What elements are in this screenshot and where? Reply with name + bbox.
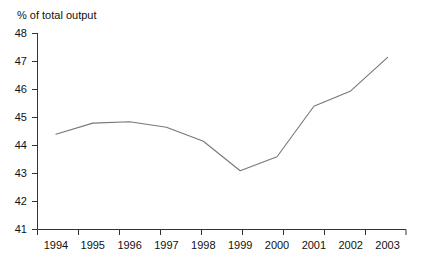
y-tick-label: 46 bbox=[5, 84, 27, 95]
x-axis-ticks bbox=[38, 230, 407, 236]
x-tick-label: 1994 bbox=[36, 240, 76, 251]
y-tick-label: 47 bbox=[5, 56, 27, 67]
x-tick-label: 2003 bbox=[368, 240, 408, 251]
x-tick-label: 2000 bbox=[257, 240, 297, 251]
y-tick-label: 48 bbox=[5, 28, 27, 39]
x-tick-label: 2002 bbox=[331, 240, 371, 251]
x-tick-label: 1995 bbox=[73, 240, 113, 251]
y-tick-label: 44 bbox=[5, 140, 27, 151]
data-series-line bbox=[56, 57, 388, 170]
y-tick-label: 41 bbox=[5, 224, 27, 235]
x-tick-label: 1999 bbox=[220, 240, 260, 251]
x-tick-label: 2001 bbox=[294, 240, 334, 251]
y-axis-ticks bbox=[32, 34, 38, 230]
y-tick-label: 45 bbox=[5, 112, 27, 123]
x-tick-label: 1998 bbox=[183, 240, 223, 251]
x-tick-label: 1997 bbox=[146, 240, 186, 251]
x-tick-label: 1996 bbox=[110, 240, 150, 251]
y-tick-label: 42 bbox=[5, 196, 27, 207]
chart-plot-area bbox=[0, 0, 429, 265]
chart-container: % of total output bbox=[0, 0, 429, 265]
y-tick-label: 43 bbox=[5, 168, 27, 179]
